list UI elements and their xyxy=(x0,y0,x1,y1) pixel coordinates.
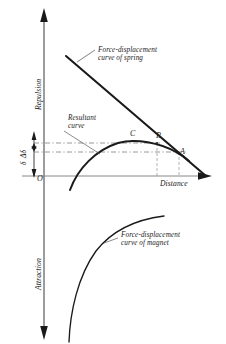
y-axis-lower-label: Attraction xyxy=(35,258,44,290)
point-label-b: B xyxy=(156,132,161,141)
dimension-arrow-top-icon xyxy=(32,131,37,140)
dashed-level-lines-group xyxy=(34,143,186,152)
annotation-magnet-line2: curve of magnet xyxy=(121,239,180,247)
force-displacement-figure: Repulsion Attraction δ Δδ O Distance For… xyxy=(0,0,226,344)
annotation-resultant-curve: Resultant curve xyxy=(68,114,96,130)
origin-label: O xyxy=(37,175,43,184)
dimension-label: δ Δδ xyxy=(20,150,28,165)
annotation-spring-curve: Force-displacement curve of spring xyxy=(98,46,157,62)
dimension-tick-mid2-icon xyxy=(31,147,36,153)
annotation-magnet-curve: Force-displacement curve of magnet xyxy=(121,231,180,247)
leader-line-spring xyxy=(77,50,95,62)
leader-line-resultant xyxy=(64,131,100,154)
point-marker-c xyxy=(131,140,133,142)
annotation-spring-line1: Force-displacement xyxy=(98,46,157,54)
y-axis-arrow-up-icon xyxy=(40,8,48,22)
annotation-spring-line2: curve of spring xyxy=(98,54,157,62)
dimension-arrow-bottom-icon xyxy=(32,169,37,178)
annotation-resultant-line2: curve xyxy=(68,122,96,130)
point-label-a: A xyxy=(180,148,185,157)
x-axis-label: Distance xyxy=(160,180,188,189)
annotation-resultant-line1: Resultant xyxy=(68,114,96,122)
point-marker-b xyxy=(156,142,158,144)
annotation-magnet-line1: Force-displacement xyxy=(121,231,180,239)
y-axis-arrow-down-icon xyxy=(40,326,48,340)
dimension-bar-group xyxy=(31,131,36,178)
point-label-c: C xyxy=(130,130,135,139)
y-axis-upper-label: Repulsion xyxy=(35,79,44,110)
